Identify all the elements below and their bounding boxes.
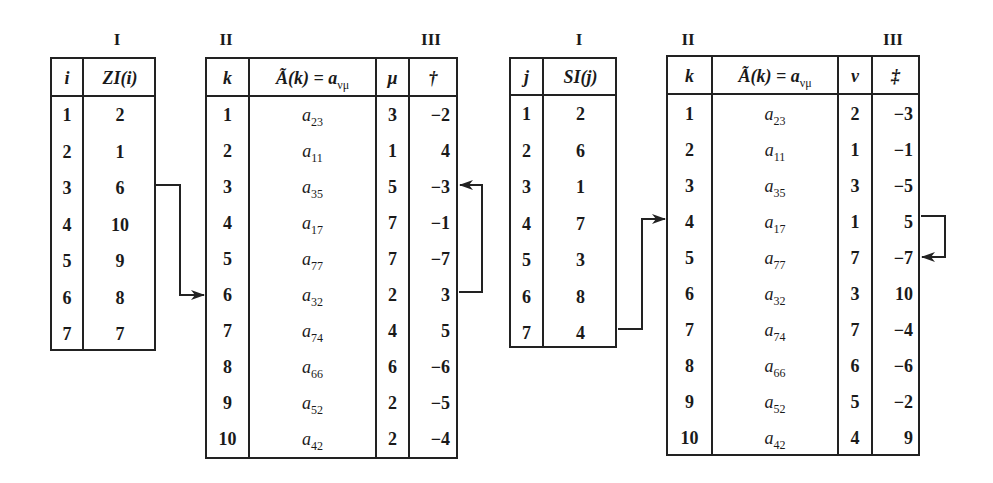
link-arrows [0,0,993,483]
arrow-k6-to-k3-left [459,185,482,292]
arrow-zi3-to-k6 [156,185,204,295]
arrow-si7-to-k4 [618,219,665,329]
arrow-k4-to-k5-right [921,216,945,257]
